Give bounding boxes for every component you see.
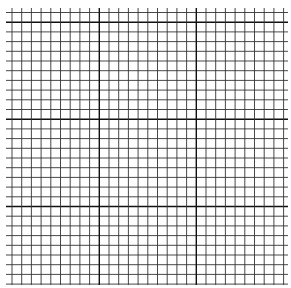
horizontal-lines bbox=[6, 13, 288, 285]
grid-pattern bbox=[0, 0, 291, 288]
vertical-lines bbox=[12, 8, 284, 285]
